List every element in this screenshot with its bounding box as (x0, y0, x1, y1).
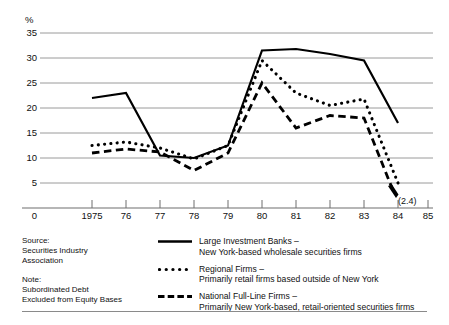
gridlines (40, 33, 433, 183)
source-note: Source: Securities Industry Association (22, 236, 122, 267)
legend-item-national-full-line-firms: National Full-Line Firms – Primarily New… (158, 291, 414, 312)
solid-line-swatch-icon (158, 236, 192, 247)
note-heading: Note: (22, 275, 122, 285)
x-axis-label-1975: 1975 (81, 211, 102, 221)
legend-item-regional-firms: Regional Firms – Primarily retail firms … (158, 264, 414, 285)
series-large-investment-banks (92, 49, 398, 158)
y-axis-label-30: 30 (17, 53, 37, 63)
source-heading: Source: (22, 236, 122, 246)
legend-item-large-investment-banks: Large Investment Banks – New York-based … (158, 236, 414, 257)
y-axis-label-5: 5 (17, 178, 37, 188)
bottom-divider (22, 311, 427, 312)
y-axis-label-15: 15 (17, 128, 37, 138)
legend-label-large-investment-banks: Large Investment Banks – New York-based … (199, 236, 362, 257)
y-axis-label-10: 10 (17, 153, 37, 163)
y-axis-unit-label: % (25, 14, 33, 25)
x-axis-label-82: 82 (325, 211, 336, 221)
x-axis-label-81: 81 (291, 211, 302, 221)
x-axis-label-80: 80 (257, 211, 268, 221)
footnotes: Source: Securities Industry Association … (22, 236, 122, 305)
legend-line-1: National Full-Line Firms – (199, 291, 414, 302)
chart-legend: Large Investment Banks – New York-based … (158, 236, 414, 313)
legend-line-1: Large Investment Banks – (199, 236, 362, 247)
dotted-line-swatch-icon (158, 264, 192, 275)
x-axis-ticks (92, 200, 428, 208)
legend-label-national-full-line-firms: National Full-Line Firms – Primarily New… (199, 291, 414, 312)
series-endpoint-arrow (388, 185, 399, 199)
legend-label-regional-firms: Regional Firms – Primarily retail firms … (199, 264, 379, 285)
note-line-1: Subordinated Debt (22, 285, 122, 295)
series-national-full-line-firms (92, 83, 394, 193)
x-axis-label-76: 76 (121, 211, 132, 221)
legend-line-2: Primarily retail firms based outside of … (199, 274, 379, 285)
x-axis-label-79: 79 (223, 211, 234, 221)
x-axis-label-78: 78 (189, 211, 200, 221)
legend-line-2: New York-based wholesale securities firm… (199, 247, 362, 258)
source-line-2: Association (22, 256, 122, 266)
data-annotation-2-4: (2.4) (398, 196, 417, 206)
y-axis-label-25: 25 (17, 78, 37, 88)
explanatory-note: Note: Subordinated Debt Excluded from Eq… (22, 275, 122, 306)
dashed-line-swatch-icon (158, 291, 192, 302)
y-axis-label-0: 0 (17, 211, 37, 221)
y-axis-label-35: 35 (17, 28, 37, 38)
x-axis-label-85: 85 (423, 211, 434, 221)
series-regional-firms (92, 61, 398, 184)
source-line-1: Securities Industry (22, 246, 122, 256)
x-axis-label-83: 83 (359, 211, 370, 221)
x-axis-label-84: 84 (393, 211, 404, 221)
x-axis-label-77: 77 (155, 211, 166, 221)
chart-figure: % 35 30 25 20 15 10 5 0 1975 76 77 78 79… (0, 0, 449, 325)
y-axis-label-20: 20 (17, 103, 37, 113)
legend-line-1: Regional Firms – (199, 264, 379, 275)
note-line-2: Excluded from Equity Bases (22, 295, 122, 305)
